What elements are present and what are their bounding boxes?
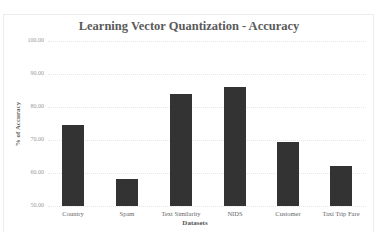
x-tick: Taxi Trip Fare [311,210,371,217]
x-tick: Spam [97,210,157,217]
bar-customer [277,142,299,206]
x-tick: NIDS [205,210,265,217]
y-tick: 90.00 [14,70,44,76]
x-tick: Country [43,210,103,217]
y-tick: 50.00 [14,202,44,208]
x-tick: Customer [258,210,318,217]
gridline-90 [48,74,366,75]
gridline-50 [48,206,366,207]
bar-spam [116,179,138,206]
chart-title: Learning Vector Quantization - Accuracy [0,19,378,34]
x-tick: Text Similarity [151,210,211,217]
x-axis-label: Datasets [170,219,220,227]
y-tick: 60.00 [14,169,44,175]
gridline-100 [48,41,366,42]
gridline-60 [48,173,366,174]
y-tick: 100.00 [14,37,44,43]
gridline-80 [48,107,366,108]
bar-taxi-trip-fare [330,166,352,206]
bar-text-similarity [170,94,192,206]
gridline-70 [48,140,366,141]
bar-country [62,125,84,206]
y-axis-label: % of Accuracy [14,84,22,164]
bar-nids [224,87,246,206]
